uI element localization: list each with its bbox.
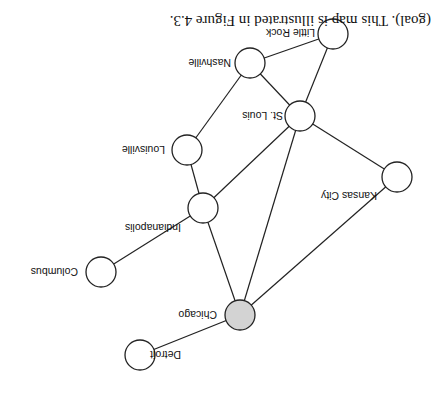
node-kansas_city — [382, 162, 412, 192]
node-label-columbus: Columbus — [31, 266, 78, 278]
node-label-indianapolis: Indianapolis — [125, 222, 181, 234]
figure-rotated-stage: DetroitChicagoColumbusIndianapolisKansas… — [0, 0, 443, 404]
edge-chicago-st_louis — [240, 116, 300, 315]
node-louisville — [172, 135, 202, 165]
node-columbus — [86, 257, 116, 287]
node-indianapolis — [188, 193, 218, 223]
node-nashville — [235, 48, 265, 78]
node-chicago-goal — [225, 300, 255, 330]
node-label-louisville: Louisville — [122, 144, 165, 156]
edge-chicago-indianapolis — [203, 208, 240, 315]
node-st_louis — [285, 101, 315, 131]
node-label-st_louis: St. Louis — [242, 110, 283, 122]
edge-indianapolis-columbus — [101, 208, 203, 272]
figure-caption: (goal). This map is illustrated in Figur… — [170, 12, 431, 29]
node-label-nashville: Nashville — [188, 57, 231, 69]
node-label-kansas_city: Kansas City — [320, 190, 377, 202]
node-label-chicago: Chicago — [178, 309, 217, 321]
city-graph-diagram: DetroitChicagoColumbusIndianapolisKansas… — [0, 0, 443, 404]
edge-indianapolis-st_louis — [203, 116, 300, 208]
node-label-detroit: Detroit — [150, 349, 181, 361]
edge-louisville-nashville — [187, 63, 250, 150]
edge-st_louis-kansas_city — [300, 116, 397, 177]
